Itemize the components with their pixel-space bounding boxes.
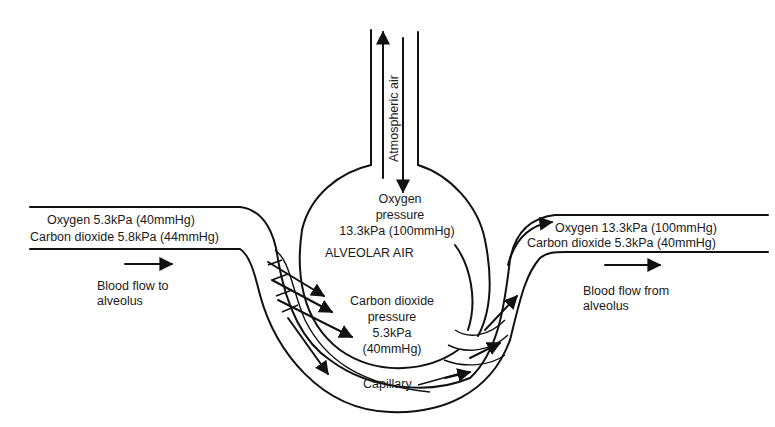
inflow-co2-label: Carbon dioxide 5.8kPa (44mmHg) <box>30 230 219 244</box>
alveolar-co2-line3: 5.3kPa <box>373 326 412 340</box>
inflow-flow-line1: Blood flow to <box>97 279 169 293</box>
alveolar-oxygen-line3: 13.3kPa (100mmHg) <box>339 224 454 238</box>
alveolar-gas-exchange-diagram: Atmospheric air Oxygen pr <box>0 0 775 427</box>
outflow-flow-line2: alveolus <box>583 299 629 313</box>
inflow-oxygen-label: Oxygen 5.3kPa (40mmHg) <box>47 213 195 227</box>
alveolar-co2-line4: (40mmHg) <box>362 342 421 356</box>
alveolar-air-label: ALVEOLAR AIR <box>325 246 414 260</box>
outflow-co2-label: Carbon dioxide 5.3kPa (40mmHg) <box>527 236 716 250</box>
inflow-flow-line2: alveolus <box>97 294 143 308</box>
alveolar-co2-line1: Carbon dioxide <box>350 294 434 308</box>
capillary-label: Capillary <box>363 377 412 391</box>
alveolar-oxygen-line1: Oxygen <box>378 192 421 206</box>
outflow-oxygen-label: Oxygen 13.3kPa (100mmHg) <box>555 221 717 235</box>
alveolar-co2-line2: pressure <box>368 310 417 324</box>
atmospheric-air-label: Atmospheric air <box>387 75 401 162</box>
alveolar-oxygen-line2: pressure <box>376 208 425 222</box>
outflow-flow-line1: Blood flow from <box>583 284 669 298</box>
co2-diffusion-arrows <box>268 262 352 374</box>
